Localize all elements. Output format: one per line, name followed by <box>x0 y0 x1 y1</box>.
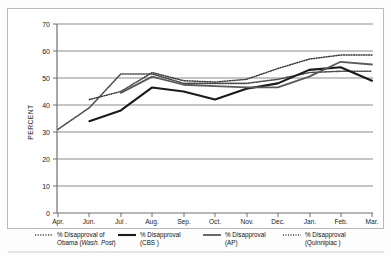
y-tick-label-60: 60 <box>42 48 50 55</box>
x-tick-label-dec: Dec. <box>271 218 285 225</box>
y-tick-label-0: 0 <box>46 210 50 217</box>
y-tick-label-50: 50 <box>42 75 50 82</box>
legend-label-quinnipiac-line1: % Disapproval <box>305 231 346 239</box>
legend-label-quinnipiac-line2: (Quinnipiac ) <box>305 239 341 247</box>
x-tick-label-jul: Jul . <box>115 218 127 225</box>
y-axis-title: PERCENT <box>27 104 34 139</box>
chart-legend: % Disapproval of Obama (Wash. Post) % Di… <box>35 231 346 247</box>
y-tick-labels: 0 10 20 30 40 50 60 70 <box>42 21 50 217</box>
disapproval-line-chart: 0 10 20 30 40 50 60 70 PERCENT Ap <box>0 0 391 256</box>
series-line-quinnipiac <box>89 55 372 100</box>
y-tick-label-40: 40 <box>42 102 50 109</box>
data-series <box>58 55 372 129</box>
series-line-cbs <box>89 67 372 121</box>
chart-screenshot: 0 10 20 30 40 50 60 70 PERCENT Ap <box>0 0 391 256</box>
legend-label-washington-post-line2: Obama (Wash. Post) <box>57 239 116 247</box>
y-tick-label-20: 20 <box>42 156 50 163</box>
x-tick-marks <box>58 213 372 217</box>
legend-label-washington-post-line1: % Disapproval of <box>57 231 105 239</box>
y-tick-label-10: 10 <box>42 183 50 190</box>
x-tick-label-mar: Mar. <box>366 218 379 225</box>
axes <box>57 24 373 213</box>
legend-label-ap-line1: % Disapproval <box>225 231 266 239</box>
legend-label-ap-line2: (AP) <box>225 239 238 247</box>
gridlines <box>57 24 373 186</box>
x-tick-label-apr: Apr. <box>52 218 64 226</box>
y-tick-label-70: 70 <box>42 21 50 28</box>
legend-label-cbs-line1: % Disapproval <box>140 231 181 239</box>
x-tick-label-oct: Oct. <box>209 218 221 225</box>
x-tick-label-feb: Feb. <box>334 218 347 225</box>
x-tick-label-nov: Nov. <box>240 218 253 225</box>
x-tick-label-aug: Aug. <box>145 218 159 226</box>
legend-label-cbs-line2: (CBS ) <box>140 239 159 247</box>
y-tick-label-30: 30 <box>42 129 50 136</box>
x-tick-label-jan: Jan. <box>304 218 317 225</box>
x-tick-labels: Apr. Jun. Jul . Aug. Sep. Oct. Nov. Dec.… <box>52 218 378 226</box>
x-tick-label-jun: Jun. <box>83 218 96 225</box>
x-tick-label-sep: Sep. <box>177 218 191 226</box>
